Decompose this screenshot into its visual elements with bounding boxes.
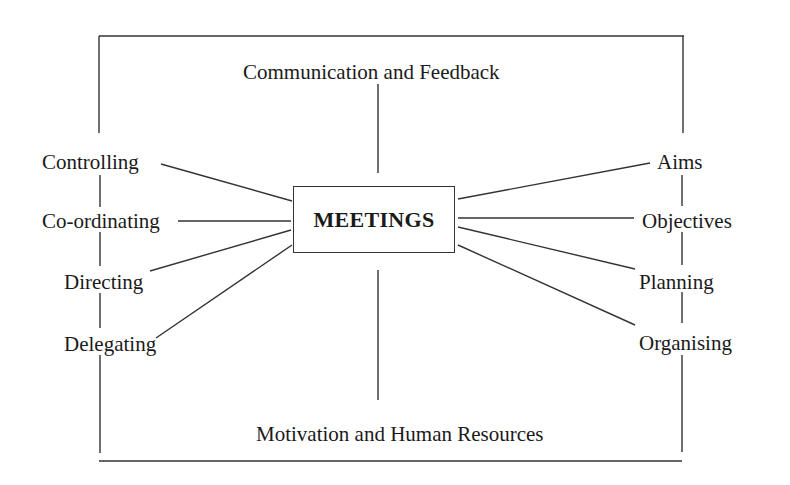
connector-controlling bbox=[161, 164, 292, 201]
connector-directing bbox=[150, 230, 291, 271]
connector-organising bbox=[458, 245, 635, 325]
label-directing: Directing bbox=[64, 270, 143, 294]
label-planning: Planning bbox=[639, 270, 714, 294]
label-controlling: Controlling bbox=[42, 150, 139, 174]
connector-planning bbox=[458, 227, 635, 269]
label-coordinating: Co-ordinating bbox=[42, 209, 160, 233]
label-communication-feedback: Communication and Feedback bbox=[243, 60, 500, 84]
label-objectives: Objectives bbox=[642, 209, 732, 233]
label-motivation-human-resources: Motivation and Human Resources bbox=[256, 422, 544, 446]
center-node-label: MEETINGS bbox=[314, 207, 435, 233]
label-aims: Aims bbox=[657, 150, 703, 174]
label-delegating: Delegating bbox=[64, 332, 156, 356]
connector-delegating bbox=[156, 245, 292, 338]
connector-aims bbox=[458, 163, 650, 199]
label-organising: Organising bbox=[639, 331, 732, 355]
center-node-meetings: MEETINGS bbox=[293, 186, 455, 253]
